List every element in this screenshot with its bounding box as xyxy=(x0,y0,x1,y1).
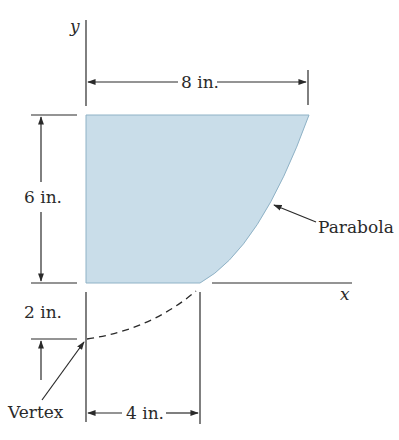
x-axis-label: x xyxy=(340,284,350,304)
vertex-offset-label: 2 in. xyxy=(24,302,62,322)
parabola-label: Parabola xyxy=(318,217,394,237)
height-label: 6 in. xyxy=(24,187,62,207)
bottom-width-label: 4 in. xyxy=(126,403,164,423)
shaded-area-diagram: y x 8 in. 6 in. 2 in. 4 in. Vertex Parab… xyxy=(0,0,399,440)
y-axis-label: y xyxy=(69,16,80,36)
parabola-dashed-extension xyxy=(87,291,196,339)
vertex-leader-arrow xyxy=(42,342,84,400)
parabola-leader-arrow xyxy=(274,205,316,222)
top-width-label: 8 in. xyxy=(181,72,219,92)
vertex-label: Vertex xyxy=(7,402,64,422)
shaded-region xyxy=(86,115,309,283)
